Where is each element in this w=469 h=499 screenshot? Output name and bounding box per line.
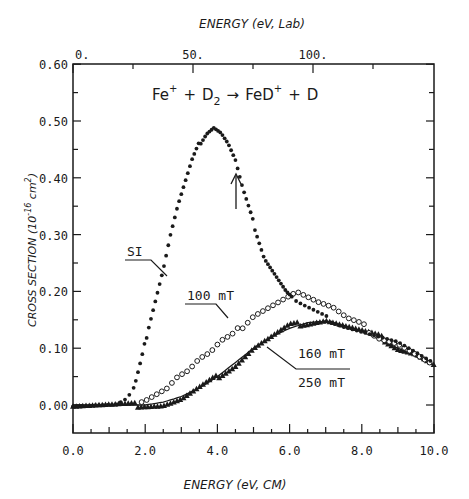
y-tick-label: 0.30 xyxy=(39,229,68,243)
product-d: D xyxy=(307,86,319,104)
reactant-fe-charge: + xyxy=(169,83,177,94)
label-si: SI xyxy=(127,244,143,259)
top-x-tick-label: 0. xyxy=(75,48,89,62)
reactant-fe: Fe xyxy=(152,86,169,104)
y-axis-title-exp: -16 xyxy=(24,203,33,216)
y-axis-tick-labels: 0.000.100.200.300.400.500.60 xyxy=(39,58,68,413)
x-axis-tick-labels: 0.02.04.06.08.010.0 xyxy=(62,444,448,458)
x-tick-label: 8.0 xyxy=(351,444,373,458)
label-100mT: 100 mT xyxy=(187,288,234,303)
top-x-axis-tick-labels: 0.50.100. xyxy=(75,48,327,62)
series-SI-filled-circles xyxy=(71,126,432,408)
series-250mT-line xyxy=(73,321,434,405)
y-axis-ticks xyxy=(73,64,434,405)
y-tick-label: 0.50 xyxy=(39,115,68,129)
annotation-100mT: 100 mT xyxy=(185,288,234,318)
y-axis-title-main: CROSS SECTION (10 xyxy=(26,216,39,327)
y-axis-title-close: ) xyxy=(26,173,39,178)
y-tick-label: 0.20 xyxy=(39,285,68,299)
series-160mT-triangles xyxy=(70,318,437,410)
product-fed-charge: + xyxy=(274,83,282,94)
x-tick-label: 0.0 xyxy=(62,444,84,458)
y-tick-label: 0.40 xyxy=(39,172,68,186)
label-250mT: 250 mT xyxy=(298,375,345,390)
reaction-equation: Fe++D2→FeD++D xyxy=(152,83,318,108)
plus-sign: + xyxy=(288,86,301,104)
top-x-tick-label: 100. xyxy=(299,48,328,62)
y-axis-title-unit: cm xyxy=(26,182,39,202)
reaction-arrow: → xyxy=(227,86,240,104)
cross-section-chart: 0.02.04.06.08.010.0 0.50.100. 0.000.100.… xyxy=(0,0,469,499)
label-160mT: 160 mT xyxy=(298,346,345,361)
y-tick-label: 0.00 xyxy=(39,399,68,413)
x-tick-label: 6.0 xyxy=(279,444,301,458)
x-axis-ticks xyxy=(73,424,434,433)
y-tick-label: 0.10 xyxy=(39,342,68,356)
y-axis-title: CROSS SECTION (10-16 cm2) xyxy=(24,173,39,327)
top-x-tick-label: 50. xyxy=(182,48,204,62)
top-x-axis-ticks xyxy=(73,64,373,73)
annotation-si: SI xyxy=(125,244,167,276)
plus-sign: + xyxy=(183,86,196,104)
x-tick-label: 2.0 xyxy=(134,444,156,458)
series-100mT-open-circles xyxy=(139,290,432,404)
x-tick-label: 4.0 xyxy=(207,444,229,458)
y-tick-label: 0.60 xyxy=(39,58,68,72)
annotation-160-250mT: 160 mT 250 mT xyxy=(267,346,350,390)
x-axis-title: ENERGY (eV, CM) xyxy=(184,478,287,492)
reactant-d2: D xyxy=(202,86,214,104)
x-tick-label: 10.0 xyxy=(420,444,449,458)
reactant-d2-subscript: 2 xyxy=(214,95,221,108)
annotation-arrow xyxy=(231,174,241,209)
top-x-axis-title: ENERGY (eV, Lab) xyxy=(199,17,305,31)
product-fed: FeD xyxy=(245,86,274,104)
